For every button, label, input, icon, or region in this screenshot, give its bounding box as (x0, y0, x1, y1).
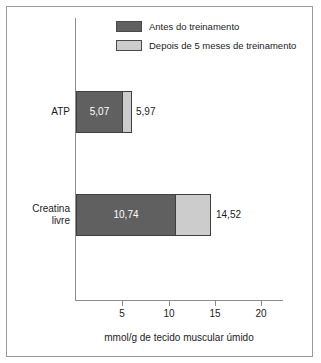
bar-value-creatina-antes: 10,74 (76, 194, 176, 236)
category-label-creatina-livre: Creatina livre (4, 203, 70, 227)
plot-area: 5 10 15 20 ATP 5,07 5,97 Creatina livre … (0, 0, 321, 363)
x-tick-label-5: 5 (107, 308, 137, 319)
category-label-atp: ATP (4, 106, 70, 118)
category-label-atp-line1: ATP (4, 106, 70, 118)
x-tick-mark-5 (122, 301, 123, 306)
bar-value-atp-total: 5,97 (136, 91, 155, 133)
x-axis-title: mmol/g de tecido muscular úmido (75, 332, 283, 343)
category-label-creatina-line2: livre (4, 215, 70, 227)
x-tick-label-15: 15 (200, 308, 230, 319)
x-axis-line (75, 300, 283, 301)
bar-value-atp-antes: 5,07 (76, 91, 123, 133)
bar-segment-atp-depois (123, 91, 132, 133)
x-tick-mark-20 (261, 301, 262, 306)
chart-figure: Antes do treinamento Depois de 5 meses d… (0, 0, 321, 363)
x-tick-mark-10 (169, 301, 170, 306)
x-tick-label-20: 20 (246, 308, 276, 319)
category-label-creatina-line1: Creatina (4, 203, 70, 215)
bar-segment-creatina-depois (176, 194, 211, 236)
bar-value-creatina-total: 14,52 (216, 194, 241, 236)
x-tick-mark-15 (215, 301, 216, 306)
y-axis-line (75, 18, 76, 301)
x-tick-label-10: 10 (154, 308, 184, 319)
